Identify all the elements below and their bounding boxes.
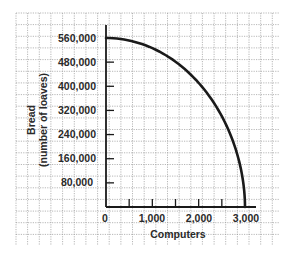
x-tick-label: 1,000 <box>139 212 165 224</box>
ppf-chart: 560,000 480,000 400,000 320,000 240,000 … <box>0 0 298 263</box>
grid <box>16 13 280 245</box>
x-tick-marks <box>129 199 245 207</box>
y-tick-label: 400,000 <box>58 80 96 92</box>
y-axis-title: Bread <box>25 105 37 135</box>
x-tick-label: 2,000 <box>186 212 212 224</box>
y-tick-label: 480,000 <box>58 56 96 68</box>
y-tick-label: 80,000 <box>61 176 93 188</box>
y-tick-label: 160,000 <box>58 152 96 164</box>
axes <box>106 25 256 207</box>
y-tick-label: 320,000 <box>58 104 96 116</box>
y-tick-label: 560,000 <box>58 32 96 44</box>
x-tick-labels: 0 1,000 2,000 3,000 <box>102 212 259 224</box>
y-tick-label: 240,000 <box>58 128 96 140</box>
ppf-curve <box>106 38 245 207</box>
y-axis-subtitle: (number of loaves) <box>37 73 49 167</box>
x-tick-label: 3,000 <box>233 212 259 224</box>
x-axis-title: Computers <box>150 228 206 240</box>
x-tick-label: 0 <box>102 212 108 224</box>
